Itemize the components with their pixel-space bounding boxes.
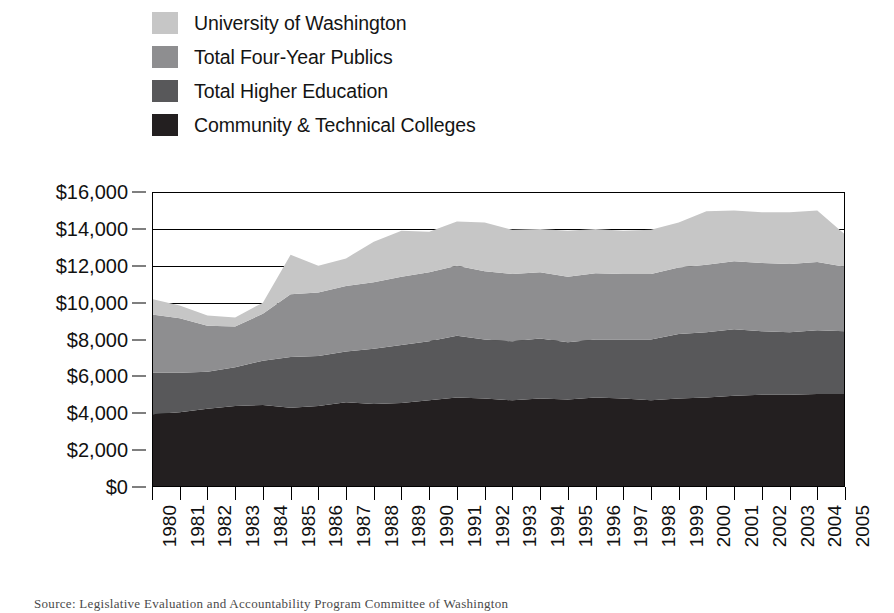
x-tick-mark bbox=[401, 487, 402, 500]
legend-item: Community & Technical Colleges bbox=[152, 108, 476, 142]
x-tick-mark bbox=[734, 487, 735, 500]
x-tick-mark bbox=[457, 487, 458, 500]
y-tick-mark bbox=[132, 450, 146, 451]
x-tick-label: 2001 bbox=[741, 505, 763, 547]
x-tick-label: 1983 bbox=[242, 505, 264, 547]
x-tick-label: 1980 bbox=[159, 505, 181, 547]
legend-label: Community & Technical Colleges bbox=[194, 114, 476, 137]
source-caption: Source: Legislative Evaluation and Accou… bbox=[34, 596, 508, 612]
x-tick-mark bbox=[429, 487, 430, 500]
y-tick-label: $10,000 bbox=[56, 291, 128, 314]
x-tick-mark bbox=[651, 487, 652, 500]
y-tick-label: $0 bbox=[106, 476, 128, 499]
legend-item: Total Higher Education bbox=[152, 74, 476, 108]
y-tick-mark bbox=[132, 228, 146, 229]
x-tick-mark bbox=[706, 487, 707, 500]
legend-swatch bbox=[152, 46, 178, 68]
x-tick-label: 1994 bbox=[547, 505, 569, 547]
y-tick-label: $16,000 bbox=[56, 181, 128, 204]
y-axis: $0$2,000$4,000$6,000$8,000$10,000$12,000… bbox=[0, 192, 146, 487]
plot-frame bbox=[152, 192, 845, 487]
x-tick-label: 2003 bbox=[797, 505, 819, 547]
x-tick-label: 1993 bbox=[519, 505, 541, 547]
x-tick-label: 2004 bbox=[824, 505, 846, 547]
y-tick-mark bbox=[132, 376, 146, 377]
x-tick-mark bbox=[762, 487, 763, 500]
x-tick-label: 2005 bbox=[852, 505, 874, 547]
x-tick-label: 1999 bbox=[686, 505, 708, 547]
legend-swatch bbox=[152, 12, 178, 34]
x-tick-mark bbox=[235, 487, 236, 500]
y-tick-label: $6,000 bbox=[67, 365, 128, 388]
x-tick-mark bbox=[568, 487, 569, 500]
x-tick-label: 1991 bbox=[464, 505, 486, 547]
stacked-area-chart: University of WashingtonTotal Four-Year … bbox=[0, 0, 894, 613]
x-tick-label: 1986 bbox=[325, 505, 347, 547]
x-tick-mark bbox=[152, 487, 153, 500]
x-tick-label: 2002 bbox=[769, 505, 791, 547]
y-tick-label: $4,000 bbox=[67, 402, 128, 425]
x-tick-mark bbox=[623, 487, 624, 500]
y-tick-label: $8,000 bbox=[67, 328, 128, 351]
x-tick-mark bbox=[207, 487, 208, 500]
y-tick-mark bbox=[132, 413, 146, 414]
x-tick-mark bbox=[291, 487, 292, 500]
x-tick-mark bbox=[540, 487, 541, 500]
y-tick-mark bbox=[132, 265, 146, 266]
x-tick-label: 1998 bbox=[658, 505, 680, 547]
x-tick-mark bbox=[374, 487, 375, 500]
x-tick-label: 1987 bbox=[353, 505, 375, 547]
x-tick-label: 1989 bbox=[408, 505, 430, 547]
legend-label: Total Higher Education bbox=[194, 80, 388, 103]
y-tick-mark bbox=[132, 192, 146, 193]
x-tick-label: 1984 bbox=[270, 505, 292, 547]
x-tick-label: 1995 bbox=[575, 505, 597, 547]
x-tick-mark bbox=[180, 487, 181, 500]
y-tick-label: $14,000 bbox=[56, 217, 128, 240]
legend-item: University of Washington bbox=[152, 6, 476, 40]
x-tick-mark bbox=[512, 487, 513, 500]
x-tick-mark bbox=[817, 487, 818, 500]
legend-label: University of Washington bbox=[194, 12, 407, 35]
y-tick-label: $2,000 bbox=[67, 439, 128, 462]
x-tick-label: 1990 bbox=[436, 505, 458, 547]
x-tick-mark bbox=[318, 487, 319, 500]
legend-label: Total Four-Year Publics bbox=[194, 46, 393, 69]
y-tick-label: $12,000 bbox=[56, 254, 128, 277]
plot-area bbox=[152, 192, 845, 487]
x-tick-mark bbox=[790, 487, 791, 500]
x-tick-label: 1985 bbox=[298, 505, 320, 547]
y-tick-mark bbox=[132, 487, 146, 488]
chart-legend: University of WashingtonTotal Four-Year … bbox=[152, 6, 476, 142]
x-tick-label: 1992 bbox=[492, 505, 514, 547]
x-tick-mark bbox=[845, 487, 846, 500]
x-tick-mark bbox=[263, 487, 264, 500]
x-tick-mark bbox=[485, 487, 486, 500]
x-tick-label: 1982 bbox=[214, 505, 236, 547]
x-tick-label: 1996 bbox=[603, 505, 625, 547]
x-tick-label: 1997 bbox=[630, 505, 652, 547]
y-tick-mark bbox=[132, 302, 146, 303]
x-tick-label: 2000 bbox=[713, 505, 735, 547]
x-tick-label: 1988 bbox=[381, 505, 403, 547]
y-tick-mark bbox=[132, 339, 146, 340]
x-tick-mark bbox=[679, 487, 680, 500]
x-tick-mark bbox=[596, 487, 597, 500]
legend-item: Total Four-Year Publics bbox=[152, 40, 476, 74]
legend-swatch bbox=[152, 114, 178, 136]
legend-swatch bbox=[152, 80, 178, 102]
x-tick-mark bbox=[346, 487, 347, 500]
x-axis: 1980198119821983198419851986198719881989… bbox=[152, 487, 845, 597]
x-tick-label: 1981 bbox=[187, 505, 209, 547]
